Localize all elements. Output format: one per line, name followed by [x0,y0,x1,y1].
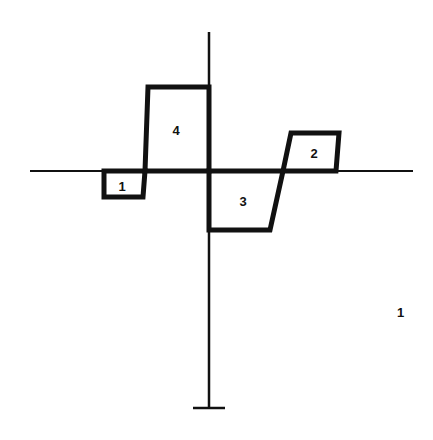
region-3-label: 3 [239,195,246,208]
region-4-label: 4 [172,124,179,137]
loop-diagram [0,0,433,440]
region-1-label: 1 [118,180,125,193]
region-2-label: 2 [310,147,317,160]
figure-number: 1 [397,306,404,319]
